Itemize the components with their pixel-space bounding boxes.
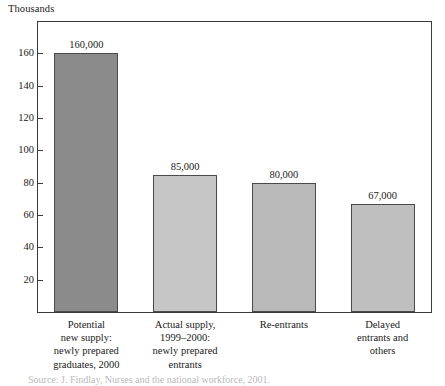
y-axis-tick: 40 (0, 247, 43, 248)
y-axis-tick-mark (38, 150, 43, 151)
y-axis-tick: 60 (0, 215, 43, 216)
y-axis-tick: 100 (0, 150, 43, 151)
y-axis-tick-mark (38, 118, 43, 119)
y-axis-tick: 20 (0, 280, 43, 281)
x-axis-category-label: Potential new supply: newly prepared gra… (33, 318, 139, 371)
bar (54, 53, 118, 312)
y-axis-tick-mark (38, 215, 43, 216)
y-axis-tick-label: 140 (18, 79, 34, 92)
y-axis-tick-mark (38, 280, 43, 281)
bar-value-label: 67,000 (333, 189, 433, 202)
x-axis-category-label: Re-entrants (231, 318, 337, 331)
y-axis-tick-mark (38, 183, 43, 184)
bar-value-label: 160,000 (36, 38, 136, 51)
bar (351, 204, 415, 312)
y-axis-tick-mark (38, 86, 43, 87)
y-axis-tick-label: 160 (18, 46, 34, 59)
bar-value-label: 85,000 (135, 160, 235, 173)
y-axis-tick: 120 (0, 118, 43, 119)
source-note: Source: J. Findlay, Nurses and the natio… (28, 373, 428, 386)
y-axis-tick-label: 40 (24, 240, 35, 253)
bar-value-label: 80,000 (234, 168, 334, 181)
y-axis-units-label: Thousands (8, 2, 54, 15)
x-axis-category-label: Delayed entrants and others (330, 318, 436, 358)
bar (153, 175, 217, 312)
y-axis-tick-mark (38, 247, 43, 248)
y-axis-tick-label: 100 (18, 143, 34, 156)
y-axis-tick-label: 60 (24, 208, 35, 221)
y-axis-tick-label: 20 (24, 273, 35, 286)
y-axis-tick: 140 (0, 86, 43, 87)
bar (252, 183, 316, 312)
y-axis-tick: 160 (0, 53, 43, 54)
y-axis-tick-mark (38, 53, 43, 54)
y-axis-tick-label: 80 (24, 176, 35, 189)
y-axis-tick-label: 120 (18, 111, 34, 124)
y-axis-tick: 80 (0, 183, 43, 184)
x-axis-category-label: Actual supply, 1999–2000: newly prepared… (132, 318, 238, 371)
